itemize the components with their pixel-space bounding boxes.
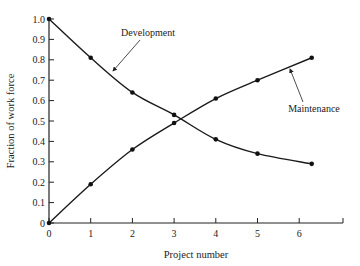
y-tick-label: 0.1 xyxy=(33,197,46,208)
x-tick-label: 6 xyxy=(297,228,302,239)
y-tick-label: 0.4 xyxy=(33,136,46,147)
x-tick-label: 3 xyxy=(172,228,177,239)
series-development xyxy=(47,17,314,166)
axes xyxy=(49,19,343,223)
data-point xyxy=(47,221,52,226)
data-point xyxy=(130,147,135,152)
y-tick-label: 0.7 xyxy=(33,75,46,86)
x-axis-ticks: 0123456 xyxy=(47,218,302,239)
development-label: Development xyxy=(121,27,175,38)
data-point xyxy=(214,96,219,101)
y-tick-label: 0.8 xyxy=(33,54,46,65)
y-tick-label: 0.5 xyxy=(33,116,46,127)
data-point xyxy=(88,55,93,60)
series-line xyxy=(49,58,312,223)
y-axis-title: Fraction of work force xyxy=(5,73,16,168)
maintenance-leader-arrow xyxy=(290,69,303,102)
x-tick-label: 2 xyxy=(130,228,135,239)
y-tick-label: 0 xyxy=(40,218,45,229)
x-tick-label: 4 xyxy=(213,228,218,239)
y-tick-label: 0.6 xyxy=(33,95,46,106)
series-maintenance xyxy=(47,55,314,225)
data-point xyxy=(309,162,314,167)
y-tick-label: 0.9 xyxy=(33,34,46,45)
series-layer xyxy=(47,17,314,226)
y-tick-label: 0.2 xyxy=(33,177,46,188)
y-tick-label: 1.0 xyxy=(33,14,46,25)
data-point xyxy=(172,113,177,118)
data-point xyxy=(130,90,135,95)
x-tick-label: 0 xyxy=(47,228,52,239)
y-axis-ticks: 00.10.20.30.40.50.60.70.80.91.0 xyxy=(33,14,55,229)
data-point xyxy=(214,137,219,142)
series-line xyxy=(49,19,312,164)
x-axis-title: Project number xyxy=(164,249,229,260)
data-point xyxy=(255,78,260,83)
line-chart: 00.10.20.30.40.50.60.70.80.91.0 0123456 … xyxy=(0,0,360,266)
maintenance-label: Maintenance xyxy=(288,103,340,114)
data-point xyxy=(172,121,177,126)
data-point xyxy=(255,151,260,156)
development-leader-arrow xyxy=(113,40,140,71)
x-tick-label: 1 xyxy=(88,228,93,239)
data-point xyxy=(309,55,314,60)
x-tick-label: 5 xyxy=(255,228,260,239)
y-tick-label: 0.3 xyxy=(33,156,46,167)
data-point xyxy=(47,17,52,22)
data-point xyxy=(88,182,93,187)
